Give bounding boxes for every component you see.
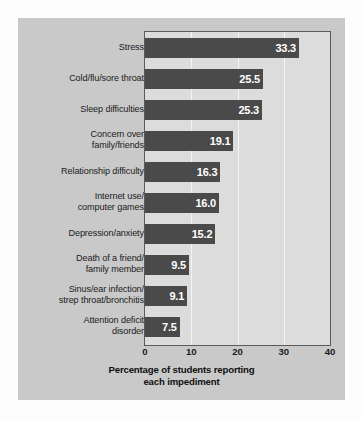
category-label: Death of a friend/family member: [20, 253, 144, 274]
bar-value-label: 7.5: [149, 317, 177, 337]
category-label: Depression/anxiety: [20, 228, 144, 239]
bar-row: 25.3: [145, 95, 330, 126]
chart-panel: StressCold/flu/sore throatSleep difficul…: [18, 18, 345, 400]
category-label: Stress: [20, 42, 144, 53]
category-label: Cold/flu/sore throat: [20, 73, 144, 84]
category-label-line: Internet use/: [20, 191, 144, 202]
x-tick-label: 30: [278, 346, 289, 357]
x-tick-label: 10: [186, 346, 197, 357]
x-tick-label: 0: [142, 346, 147, 357]
category-label-line: Death of a friend/: [20, 253, 144, 264]
category-axis-labels: StressCold/flu/sore throatSleep difficul…: [18, 18, 144, 400]
bar-value-label: 25.5: [232, 69, 260, 89]
plot-area: 33.325.525.319.116.316.015.29.59.17.5: [144, 31, 331, 346]
bar-value-label: 15.2: [184, 224, 212, 244]
category-label-line: strep throat/bronchitis: [20, 295, 144, 306]
chart-figure: StressCold/flu/sore throatSleep difficul…: [0, 0, 362, 421]
category-label-line: Stress: [20, 42, 144, 53]
x-axis-title: Percentage of students reportingeach imp…: [28, 364, 335, 387]
bar-row: 9.5: [145, 250, 330, 281]
bar-value-label: 16.0: [188, 193, 216, 213]
category-label-line: Concern over: [20, 129, 144, 140]
bar-value-label: 9.1: [156, 286, 184, 306]
category-label: Relationship difficulty: [20, 166, 144, 177]
category-label: Internet use/computer games: [20, 191, 144, 212]
bar-row: 7.5: [145, 312, 330, 343]
category-label: Concern overfamily/friends: [20, 129, 144, 150]
bar-value-label: 25.3: [231, 100, 259, 120]
bar-value-label: 19.1: [202, 131, 230, 151]
category-label-line: Attention deficit: [20, 315, 144, 326]
x-axis-title-line: each impediment: [28, 376, 335, 388]
category-label: Sinus/ear infection/strep throat/bronchi…: [20, 284, 144, 305]
category-label-line: Cold/flu/sore throat: [20, 73, 144, 84]
bar-row: 16.3: [145, 157, 330, 188]
bar-row: 9.1: [145, 281, 330, 312]
bar-row: 19.1: [145, 126, 330, 157]
category-label-line: computer games: [20, 202, 144, 213]
category-label-line: Relationship difficulty: [20, 166, 144, 177]
bar-value-label: 16.3: [189, 162, 217, 182]
x-tick-label: 40: [325, 346, 336, 357]
bar-value-label: 33.3: [268, 38, 296, 58]
category-label-line: disorder: [20, 326, 144, 337]
category-label-line: family member: [20, 264, 144, 275]
x-tick-label: 20: [232, 346, 243, 357]
bar-row: 33.3: [145, 33, 330, 64]
bar-row: 16.0: [145, 188, 330, 219]
category-label-line: Depression/anxiety: [20, 228, 144, 239]
bar-value-label: 9.5: [158, 255, 186, 275]
category-label: Sleep difficulties: [20, 104, 144, 115]
category-label-line: family/friends: [20, 140, 144, 151]
bar-row: 15.2: [145, 219, 330, 250]
bar-row: 25.5: [145, 64, 330, 95]
category-label-line: Sinus/ear infection/: [20, 284, 144, 295]
x-axis-title-line: Percentage of students reporting: [28, 364, 335, 376]
category-label: Attention deficitdisorder: [20, 315, 144, 336]
category-label-line: Sleep difficulties: [20, 104, 144, 115]
x-axis-tick-labels: 010203040: [144, 346, 331, 362]
